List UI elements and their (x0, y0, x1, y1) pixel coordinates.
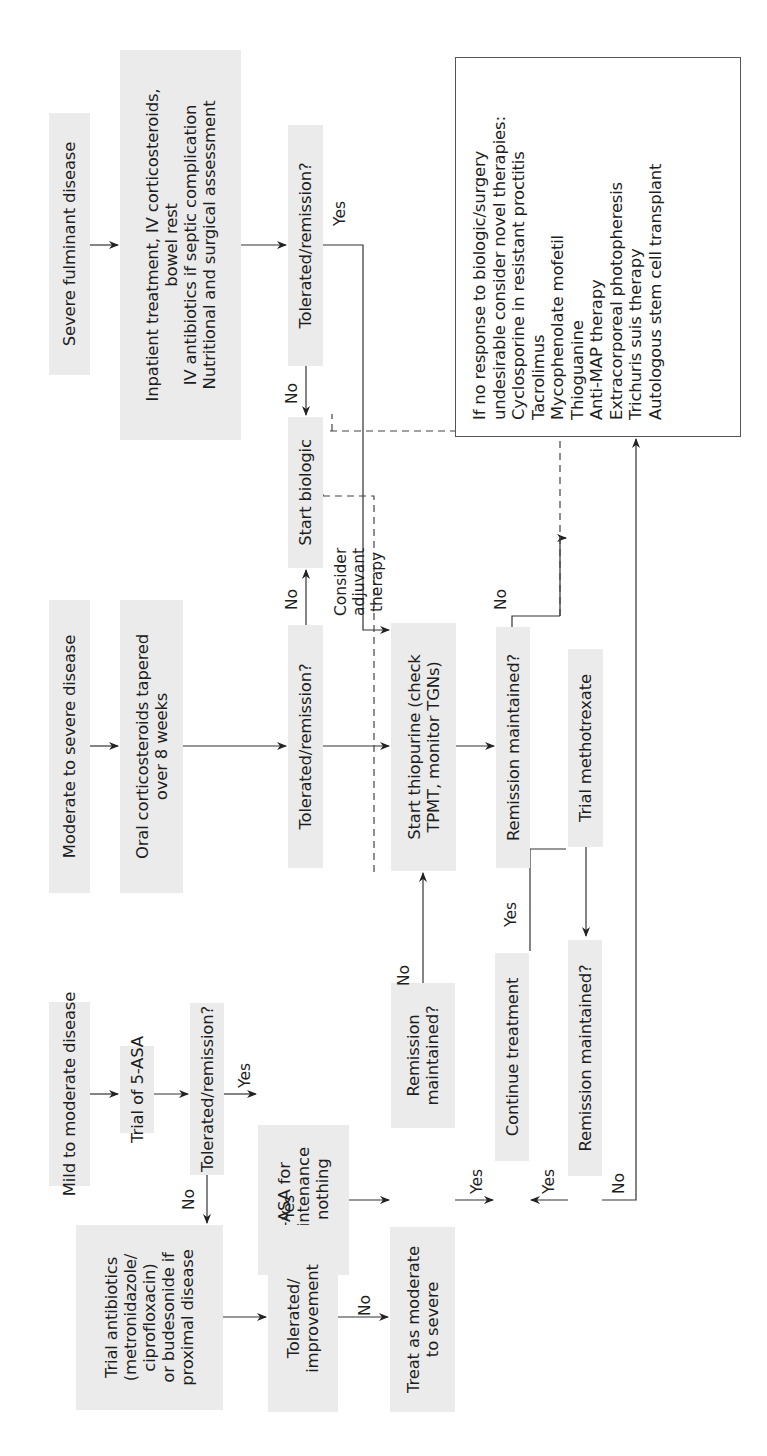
treat-moderate-line-1: Treat as moderate (404, 1246, 423, 1393)
novel-therapies-note: If no response to biologic/surgery undes… (455, 57, 741, 437)
remission-c-no-label: No (610, 1173, 628, 1194)
treat-as-moderate-box: Treat as moderate to severe (390, 1227, 455, 1412)
continue-treatment-label: Continue treatment (503, 978, 522, 1137)
improvement-yes-label: Yes (280, 1195, 298, 1220)
antibiotics-line-2: (metronidazole/ (121, 1249, 140, 1385)
moderate-start-label: Moderate to severe disease (60, 635, 79, 858)
moderate-tolerated-label: Tolerated/remission? (296, 664, 315, 830)
note-line-2: undesirable consider novel therapies: (490, 58, 510, 420)
tolerated-improvement-line-2: improvement (303, 1264, 322, 1373)
severe-tolerated-no-label: No (283, 383, 301, 404)
mild-tolerated-yes-label: Yes (236, 1063, 254, 1088)
adjuvant-line-2: adjuvant (350, 548, 368, 616)
moderate-tolerated-remission-box: Tolerated/remission? (288, 625, 323, 868)
note-line-3: Cyclosporine in resistant proctitis (509, 58, 529, 420)
remission-c-yes-label: Yes (540, 1169, 558, 1194)
remission-b-no-label: No (395, 965, 413, 986)
remission-b-yes-label: Yes (468, 1169, 486, 1194)
inpatient-line-4: Nutritional and surgical assessment (200, 89, 219, 402)
note-line-4: Tacrolimus (529, 58, 549, 420)
antibiotics-line-3: ciprofloxacin) (140, 1249, 159, 1385)
remission-a-yes-label: Yes (502, 902, 520, 927)
inpatient-line-1: Inpatient treatment, IV corticosteroids, (143, 89, 162, 402)
remission-a-no-label: No (492, 589, 510, 610)
flowchart-canvas: Severe fulminant disease Inpatient treat… (0, 0, 767, 1456)
methotrexate-label: Trial methotrexate (576, 674, 595, 822)
adjuvant-line-1: Consider (332, 548, 350, 616)
antibiotics-line-5: proximal disease (178, 1249, 197, 1385)
trial-5asa-label: Trial of 5-ASA (128, 1036, 147, 1143)
note-line-9: Trichuris suis therapy (626, 58, 646, 420)
start-biologic-box: Start biologic (288, 417, 323, 568)
mild-tolerated-remission-box: Tolerated/remission? (190, 1003, 224, 1175)
severe-start-label: Severe fulminant disease (60, 142, 79, 346)
mild-start-label: Mild to moderate disease (60, 992, 79, 1196)
adjuvant-line-3: therapy (368, 548, 386, 616)
note-line-8: Extracorporeal photopheresis (607, 58, 627, 420)
severe-fulminant-disease-box: Severe fulminant disease (49, 113, 90, 375)
oral-corticosteroids-box: Oral corticosteroids tapered over 8 week… (120, 600, 183, 893)
oral-steroids-line-2: over 8 weeks (152, 634, 171, 859)
oral-steroids-line-1: Oral corticosteroids tapered (133, 634, 152, 859)
severe-tolerated-yes-label: Yes (331, 201, 349, 226)
note-line-6: Thioguanine (568, 58, 588, 420)
antibiotics-line-1: Trial antibiotics (102, 1249, 121, 1385)
antibiotics-line-4: or budesonide if (159, 1249, 178, 1385)
tolerated-improvement-box: Tolerated/ improvement (268, 1225, 338, 1412)
note-line-1: If no response to biologic/surgery (470, 58, 490, 420)
tolerated-improvement-line-1: Tolerated/ (284, 1264, 303, 1373)
remission-maintained-a-label: Remission maintained? (504, 654, 523, 841)
remission-b-line-2: maintained? (423, 1005, 442, 1105)
remission-b-line-1: Remission (404, 1005, 423, 1105)
note-line-5: Mycophenolate mofetil (548, 58, 568, 420)
severe-tolerated-remission-box: Tolerated/remission? (288, 125, 323, 366)
mild-tolerated-label: Tolerated/remission? (198, 1006, 217, 1172)
mild-tolerated-no-label: No (180, 1189, 198, 1210)
remission-maintained-methotrexate-box: Remission maintained? (568, 940, 602, 1176)
start-thiopurine-box: Start thiopurine (check TPMT, monitor TG… (391, 623, 456, 871)
improvement-no-label: No (356, 1295, 374, 1316)
inpatient-treatment-box: Inpatient treatment, IV corticosteroids,… (120, 50, 241, 440)
moderate-tolerated-no-label: No (283, 589, 301, 610)
mild-to-moderate-disease-box: Mild to moderate disease (49, 1002, 90, 1186)
consider-adjuvant-label: Consider adjuvant therapy (332, 548, 386, 616)
severe-tolerated-label: Tolerated/remission? (296, 163, 315, 329)
inpatient-line-3: IV antibiotics if septic complication (181, 89, 200, 402)
trial-methotrexate-box: Trial methotrexate (568, 649, 603, 847)
trial-5asa-box: Trial of 5-ASA (120, 1046, 154, 1133)
moderate-to-severe-disease-box: Moderate to severe disease (49, 600, 90, 893)
trial-antibiotics-box: Trial antibiotics (metronidazole/ ciprof… (76, 1225, 223, 1410)
inpatient-line-2: bowel rest (162, 89, 181, 402)
thiopurine-line-1: Start thiopurine (check (405, 654, 424, 839)
treat-moderate-line-2: to severe (423, 1246, 442, 1393)
continue-treatment-box: Continue treatment (495, 953, 529, 1161)
note-line-10: Autologous stem cell transplant (646, 58, 666, 420)
remission-maintained-c-label: Remission maintained? (576, 964, 595, 1151)
remission-maintained-5asa-box: Remission maintained? (391, 983, 455, 1128)
note-line-7: Anti-MAP therapy (587, 58, 607, 420)
remission-maintained-thiopurine-box: Remission maintained? (496, 627, 530, 868)
start-biologic-label: Start biologic (296, 439, 315, 546)
thiopurine-line-2: TPMT, monitor TGNs) (424, 654, 443, 839)
